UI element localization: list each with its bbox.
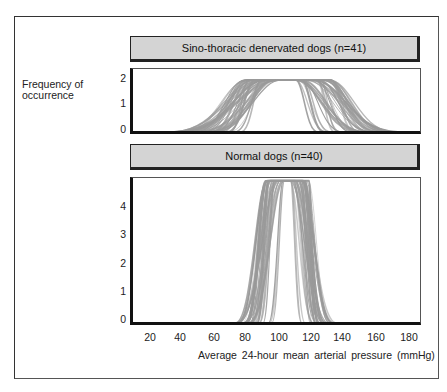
panel1-curves [133, 69, 421, 134]
panel2-plot-area [130, 177, 421, 325]
xtick-140: 140 [333, 331, 351, 343]
xtick-180: 180 [400, 331, 418, 343]
x-axis-title: Average 24-hour mean arterial pressure (… [198, 349, 435, 361]
xtick-20: 20 [144, 331, 156, 343]
panel1-ytick-1: 1 [112, 97, 126, 109]
panel2-ytick-4: 4 [112, 200, 126, 212]
xtick-60: 60 [208, 331, 220, 343]
xtick-160: 160 [367, 331, 385, 343]
xtick-100: 100 [270, 331, 288, 343]
panel2-ytick-3: 3 [112, 228, 126, 240]
panel2-ytick-2: 2 [112, 257, 126, 269]
panel1-ytick-2: 2 [112, 72, 126, 84]
panel2-ytick-1: 1 [112, 285, 126, 297]
panel2-title: Normal dogs (n=40) [225, 150, 323, 162]
panel2-curves [133, 178, 421, 325]
panel2-title-box: Normal dogs (n=40) [130, 144, 420, 170]
panel1-ytick-0: 0 [112, 123, 126, 135]
xtick-40: 40 [174, 331, 186, 343]
y-axis-title-line2: occurrence [22, 90, 83, 101]
xtick-80: 80 [239, 331, 251, 343]
y-axis-title: Frequency of occurrence [22, 79, 83, 101]
panel1-title: Sino-thoracic denervated dogs (n=41) [182, 42, 366, 54]
xtick-120: 120 [302, 331, 320, 343]
panel1-title-box: Sino-thoracic denervated dogs (n=41) [130, 36, 420, 62]
panel1-plot-area [130, 68, 421, 134]
panel2-ytick-0: 0 [112, 313, 126, 325]
